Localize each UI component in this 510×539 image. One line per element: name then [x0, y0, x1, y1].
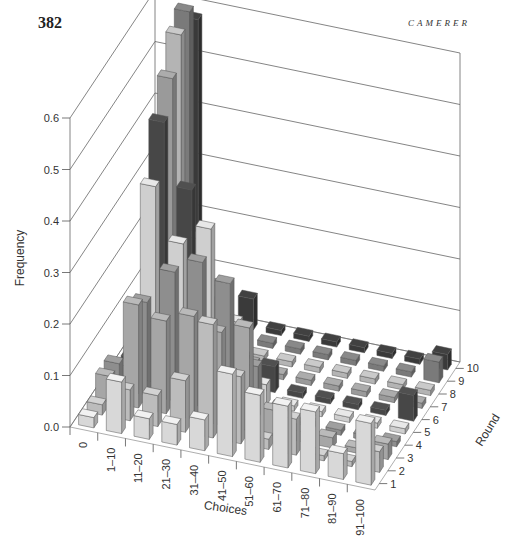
y-tick-label: 0.5	[44, 164, 59, 176]
bar-chart-3d: 0.00.10.20.30.40.50.6Frequency01–1011–20…	[0, 0, 510, 539]
bar	[190, 411, 209, 451]
x-tick-label: 41–50	[216, 471, 228, 502]
bar	[343, 396, 362, 410]
bar	[415, 382, 434, 396]
chart-axes: 0.00.10.20.30.40.50.6Frequency01–1011–20…	[13, 112, 503, 536]
y-tick-label: 0.1	[44, 370, 59, 382]
bar	[349, 339, 368, 353]
bar	[398, 387, 417, 422]
bar	[379, 389, 398, 403]
bar	[324, 377, 343, 391]
x-tick-label: 61–70	[271, 482, 283, 513]
bar	[294, 327, 313, 341]
y-tick-label: 0.3	[44, 267, 59, 279]
round-tick-label: 1	[390, 478, 396, 490]
gridline	[70, 145, 460, 273]
bar	[79, 409, 98, 428]
bar	[315, 390, 334, 404]
bar	[258, 334, 277, 348]
round-tick-label: 3	[407, 452, 413, 464]
bar	[351, 383, 370, 397]
bar	[287, 384, 306, 398]
bar	[217, 365, 236, 456]
x-tick-label: 51–60	[243, 476, 255, 507]
x-tick-label: 1–10	[105, 448, 117, 472]
x-tick-label: 91–100	[354, 499, 366, 536]
bar	[332, 364, 351, 378]
x-tick-label: 31–40	[188, 465, 200, 496]
bar	[424, 353, 443, 383]
bar	[266, 322, 285, 336]
round-tick-label: 4	[416, 439, 422, 451]
x-tick-label: 71–80	[299, 488, 311, 519]
y-tick-label: 0.4	[44, 215, 59, 227]
bar	[405, 350, 424, 364]
round-tick-label: 2	[399, 465, 405, 477]
y-tick-label: 0.2	[44, 318, 59, 330]
bar	[321, 333, 340, 347]
y-axis-title: Frequency	[13, 230, 27, 287]
bar	[277, 353, 296, 367]
bar	[106, 373, 125, 433]
gridline	[70, 42, 460, 170]
bar	[390, 420, 409, 434]
bar	[377, 345, 396, 359]
bar	[300, 403, 319, 474]
bar	[313, 346, 332, 360]
bar	[245, 386, 264, 462]
bar	[162, 416, 181, 446]
gridline	[70, 93, 460, 221]
round-tick-label: 7	[441, 401, 447, 413]
y-tick-label: 0.6	[44, 112, 59, 124]
bar	[356, 415, 375, 486]
round-tick-label: 8	[450, 388, 456, 400]
x-tick-label: 11–20	[132, 453, 144, 483]
bar	[296, 371, 315, 385]
bar	[341, 352, 360, 366]
bar	[285, 340, 304, 354]
round-tick-label: 5	[424, 426, 430, 438]
bar	[273, 397, 292, 468]
bar	[304, 359, 323, 373]
bar	[134, 410, 153, 440]
x-axis-title: Choices	[203, 498, 248, 518]
round-tick-label: 9	[458, 375, 464, 387]
x-tick-label: 81–90	[326, 493, 338, 524]
round-tick-label: 10	[467, 362, 479, 374]
x-tick-label: 21–30	[160, 459, 172, 490]
bar	[360, 370, 379, 384]
gridline	[70, 0, 460, 118]
x-tick-label: 0	[77, 442, 89, 448]
round-tick-label: 6	[433, 414, 439, 426]
bar	[396, 363, 415, 377]
bar	[368, 357, 387, 371]
bar	[328, 445, 347, 480]
bar	[371, 401, 390, 415]
bar	[334, 409, 353, 423]
chart-bars	[79, 3, 452, 485]
round-axis-title: Round	[472, 411, 503, 448]
y-tick-label: 0.0	[44, 421, 59, 433]
